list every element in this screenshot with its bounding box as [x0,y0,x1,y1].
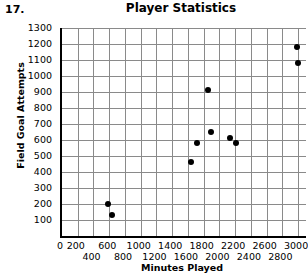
gridline-horizontal [62,124,306,125]
plot-area [60,28,306,238]
problem-number: 17. [5,3,25,16]
data-point [294,44,300,50]
y-tick-label: 600 [0,135,52,145]
data-point [109,212,115,218]
y-tick-label: 200 [0,199,52,209]
y-tick-label: 900 [0,87,52,97]
x-axis-label: Minutes Played [60,262,304,273]
chart-title: Player Statistics [60,1,302,15]
y-tick-label: 1300 [0,23,52,33]
gridline-horizontal [62,92,306,93]
data-point [295,60,301,66]
gridline-horizontal [62,76,306,77]
data-point [233,140,239,146]
gridline-horizontal [62,188,306,189]
gridline-horizontal [62,140,306,141]
gridline-horizontal [62,204,306,205]
chart-figure: 17. Player Statistics Field Goal Attempt… [0,0,308,278]
gridline-horizontal [62,172,306,173]
y-tick-label: 400 [0,167,52,177]
y-tick-label: 1100 [0,55,52,65]
y-tick-label: 100 [0,215,52,225]
x-tick-label: 3000 [276,240,308,251]
gridline-horizontal [62,220,306,221]
y-tick-label: 1000 [0,71,52,81]
gridline-horizontal [62,156,306,157]
y-tick-label: 500 [0,151,52,161]
gridline-horizontal [62,108,306,109]
y-tick-label: 300 [0,183,52,193]
data-point [105,201,111,207]
gridline-horizontal [62,44,306,45]
y-tick-label: 800 [0,103,52,113]
gridline-horizontal [62,60,306,61]
gridline-horizontal [62,28,306,29]
data-point [208,129,214,135]
data-point [194,140,200,146]
y-axis-label: Field Goal Attempts [15,46,26,186]
data-point [188,159,194,165]
y-tick-label: 1200 [0,39,52,49]
y-tick-label: 700 [0,119,52,129]
x-tick-label: 2800 [260,251,300,262]
